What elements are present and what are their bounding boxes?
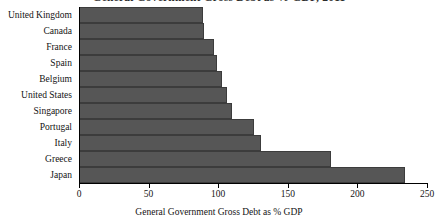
bar-france <box>79 39 214 55</box>
bar-row <box>79 39 427 55</box>
category-axis-labels: United KingdomCanadaFranceSpainBelgiumUn… <box>0 7 76 183</box>
category-label-canada: Canada <box>44 23 73 39</box>
x-tick-mark <box>427 184 428 188</box>
bar-greece <box>79 151 331 167</box>
category-label-spain: Spain <box>50 55 72 71</box>
bar-row <box>79 151 427 167</box>
bar-row <box>79 135 427 151</box>
chart-title: General Government Gross Debt as % GDP, … <box>0 0 438 3</box>
value-axis-ticks: 050100150200250 <box>79 184 427 204</box>
bar-united-kingdom <box>79 7 203 23</box>
x-tick-label: 100 <box>211 189 225 200</box>
x-tick-mark <box>79 184 80 188</box>
bar-row <box>79 55 427 71</box>
bar-row <box>79 71 427 87</box>
category-label-united-states: United States <box>21 87 72 103</box>
x-tick-label: 150 <box>281 189 295 200</box>
x-tick-label: 0 <box>77 189 82 200</box>
x-tick-mark <box>357 184 358 188</box>
category-label-belgium: Belgium <box>39 71 72 87</box>
category-label-greece: Greece <box>45 151 72 167</box>
x-axis-title: General Government Gross Debt as % GDP <box>0 207 438 217</box>
x-tick-label: 50 <box>144 189 154 200</box>
category-axis-line <box>79 7 80 183</box>
bar-canada <box>79 23 204 39</box>
bar-spain <box>79 55 217 71</box>
category-label-portugal: Portugal <box>40 119 72 135</box>
bar-united-states <box>79 87 227 103</box>
bar-row <box>79 167 427 183</box>
bar-row <box>79 7 427 23</box>
x-tick-mark <box>218 184 219 188</box>
bar-row <box>79 23 427 39</box>
x-tick-mark <box>288 184 289 188</box>
bar-row <box>79 103 427 119</box>
bar-chart-figure: General Government Gross Debt as % GDP, … <box>0 0 438 217</box>
plot-area <box>79 7 427 183</box>
bars-group <box>79 7 427 183</box>
bar-portugal <box>79 119 254 135</box>
bar-belgium <box>79 71 222 87</box>
bar-row <box>79 119 427 135</box>
bar-japan <box>79 167 405 183</box>
bar-row <box>79 87 427 103</box>
category-label-italy: Italy <box>55 135 72 151</box>
bar-singapore <box>79 103 232 119</box>
category-label-japan: Japan <box>50 167 72 183</box>
x-tick-mark <box>149 184 150 188</box>
category-label-france: France <box>46 39 72 55</box>
category-label-singapore: Singapore <box>33 103 72 119</box>
x-tick-label: 200 <box>350 189 364 200</box>
x-tick-label: 250 <box>420 189 434 200</box>
category-label-united-kingdom: United Kingdom <box>8 7 72 23</box>
bar-italy <box>79 135 261 151</box>
